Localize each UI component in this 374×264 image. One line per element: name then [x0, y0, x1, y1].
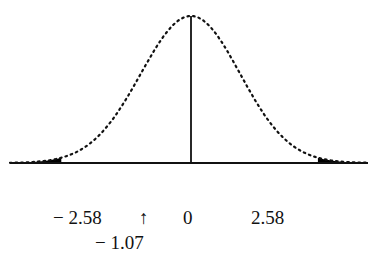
label-test-statistic: − 1.07 [95, 233, 144, 252]
normal-curve [10, 16, 368, 163]
arrow-up-icon: ↑ [139, 208, 149, 227]
label-zero: 0 [183, 208, 193, 227]
label-pos-critical: 2.58 [251, 208, 284, 227]
label-neg-critical: − 2.58 [53, 208, 102, 227]
